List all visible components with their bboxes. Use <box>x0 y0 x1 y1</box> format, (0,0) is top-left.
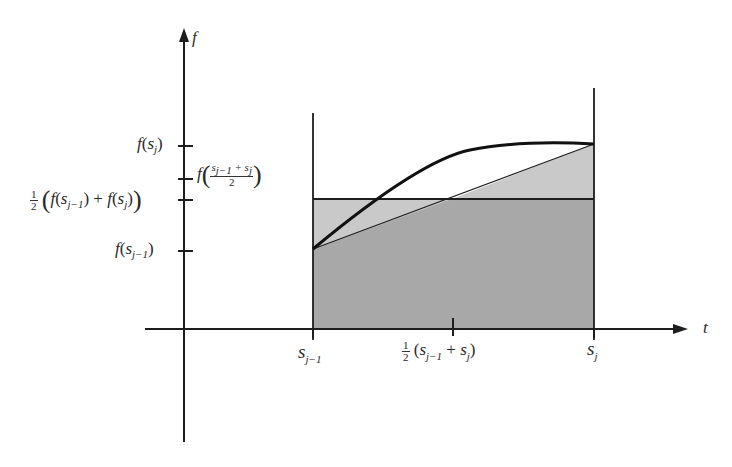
x-axis-arrow-icon <box>673 324 688 334</box>
label-sjm1: sj−1 <box>298 341 321 365</box>
label-half-average: 12 (f(sj−1) + f(sj)) <box>30 185 142 215</box>
trapezoid-midpoint-diagram <box>0 0 732 467</box>
x-axis-label: t <box>703 318 708 338</box>
label-sj: sj <box>587 338 597 362</box>
label-midpoint: 12 (sj−1 + sj) <box>402 340 475 363</box>
y-axis-label: f <box>192 28 197 48</box>
label-f-sjm1: f(sj−1) <box>115 239 154 260</box>
y-axis-arrow-icon <box>179 28 189 42</box>
label-f-sj: f(sj) <box>137 134 163 155</box>
label-f-midpoint: f(sj−1 + sj2) <box>197 160 262 190</box>
